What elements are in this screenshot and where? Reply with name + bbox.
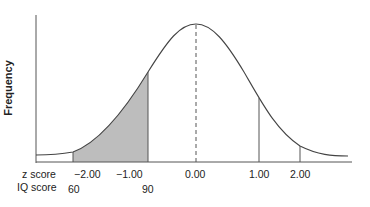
iq-tick-60: 60 bbox=[68, 183, 80, 195]
z-tick-minus2: −2.00 bbox=[74, 168, 101, 180]
z-tick-1: 1.00 bbox=[249, 168, 269, 180]
z-tick-0: 0.00 bbox=[185, 168, 205, 180]
iq-score-row-label: IQ score bbox=[17, 181, 57, 193]
normal-curve bbox=[36, 24, 348, 156]
z-score-row-label: z score bbox=[22, 168, 56, 180]
z-tick-2: 2.00 bbox=[290, 168, 310, 180]
iq-tick-90: 90 bbox=[142, 183, 154, 195]
shaded-area bbox=[73, 72, 148, 162]
z-tick-minus1: −1.00 bbox=[116, 168, 143, 180]
y-axis-label: Frequency bbox=[2, 60, 14, 116]
